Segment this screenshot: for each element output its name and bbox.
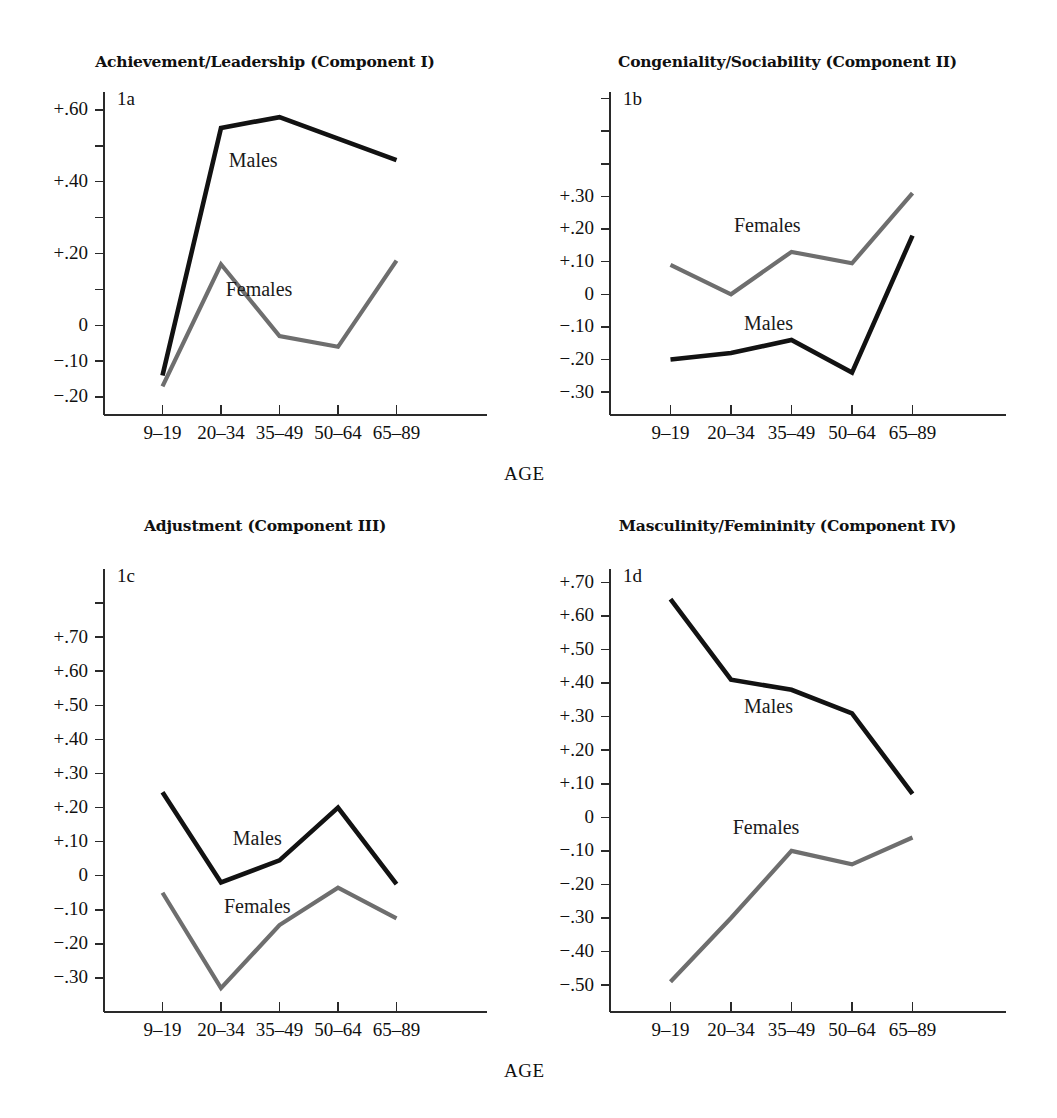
y-axis-tick-label: +.70: [560, 571, 594, 592]
panel-1a-plot: +.60+.40+.200−.10−.209–1920–3435–4950–64…: [10, 52, 520, 492]
panel-1c: Adjustment (Component III) +.70+.60+.50+…: [10, 516, 520, 1046]
panel-1d-plot: +.70+.60+.50+.40+.30+.20+.100−.10−.20−.3…: [530, 516, 1045, 1046]
x-axis-tick-label: 65–89: [889, 422, 937, 443]
y-axis-tick-label: −.30: [54, 966, 88, 987]
x-axis-tick-label: 20–34: [197, 1019, 245, 1040]
y-axis-tick-label: +.20: [54, 796, 88, 817]
x-axis-tick-label: 9–19: [652, 1019, 690, 1040]
series-label-males: Males: [233, 827, 282, 849]
x-axis-tick-label: 50–64: [314, 1019, 362, 1040]
y-axis-tick-label: −.30: [560, 906, 594, 927]
figure-four-component-age-trends: Achievement/Leadership (Component I) +.6…: [0, 0, 1057, 1118]
x-axis-tick-label: 35–49: [256, 1019, 304, 1040]
panel-tag-label: 1b: [623, 88, 642, 109]
y-axis-tick-label: +.30: [54, 762, 88, 783]
x-axis-tick-label: 50–64: [828, 1019, 876, 1040]
y-axis-tick-label: 0: [79, 314, 89, 335]
y-axis-tick-label: +.50: [54, 694, 88, 715]
x-axis-tick-label: 65–89: [373, 1019, 421, 1040]
panel-1c-plot: +.70+.60+.50+.40+.30+.20+.100−.10−.20−.3…: [10, 516, 520, 1046]
panel-tag-label: 1d: [623, 565, 643, 586]
y-axis-tick-label: +.20: [560, 739, 594, 760]
y-axis-tick-label: +.70: [54, 626, 88, 647]
x-axis-tick-label: 20–34: [707, 422, 755, 443]
y-axis-tick-label: +.60: [560, 604, 594, 625]
x-axis-tick-label: 65–89: [373, 422, 421, 443]
y-axis-tick-label: +.60: [54, 660, 88, 681]
y-axis-tick-label: +.50: [560, 638, 594, 659]
panel-tag-label: 1c: [117, 565, 135, 586]
series-line-females: [671, 193, 913, 294]
y-axis-tick-label: −.20: [54, 385, 88, 406]
y-axis-tick-label: +.10: [560, 250, 594, 271]
x-axis-tick-label: 35–49: [768, 1019, 816, 1040]
y-axis-tick-label: −.20: [560, 348, 594, 369]
series-label-males: Males: [229, 149, 278, 171]
y-axis-tick-label: −.10: [54, 350, 88, 371]
y-axis-tick-label: 0: [79, 864, 89, 885]
age-caption-bottom: AGE: [504, 1060, 545, 1082]
series-label-males: Males: [744, 695, 793, 717]
x-axis-tick-label: 9–19: [144, 1019, 182, 1040]
y-axis-tick-label: +.10: [560, 772, 594, 793]
y-axis-tick-label: +.40: [54, 728, 88, 749]
y-axis-tick-label: −.50: [560, 974, 594, 995]
y-axis-tick-label: 0: [585, 806, 595, 827]
y-axis-tick-label: +.10: [54, 830, 88, 851]
y-axis-tick-label: +.30: [560, 185, 594, 206]
y-axis-tick-label: +.20: [54, 242, 88, 263]
y-axis-tick-label: −.40: [560, 940, 594, 961]
series-label-females: Females: [226, 278, 293, 300]
panel-1b-plot: +.30+.20+.100−.10−.20−.309–1920–3435–495…: [530, 52, 1045, 492]
series-label-females: Females: [734, 214, 801, 236]
series-label-females: Females: [733, 816, 800, 838]
x-axis-tick-label: 65–89: [889, 1019, 937, 1040]
y-axis-tick-label: +.40: [54, 170, 88, 191]
y-axis-tick-label: −.10: [560, 839, 594, 860]
series-line-males: [671, 236, 913, 373]
y-axis-tick-label: −.30: [560, 381, 594, 402]
series-line-females: [671, 837, 913, 981]
panel-1b: Congeniality/Sociability (Component II) …: [530, 52, 1045, 492]
y-axis-tick-label: +.60: [54, 98, 88, 119]
x-axis-tick-label: 20–34: [707, 1019, 755, 1040]
x-axis-tick-label: 35–49: [256, 422, 304, 443]
panel-1d: Masculinity/Femininity (Component IV) +.…: [530, 516, 1045, 1046]
x-axis-tick-label: 35–49: [768, 422, 816, 443]
series-label-males: Males: [744, 312, 793, 334]
x-axis-tick-label: 20–34: [197, 422, 245, 443]
y-axis-tick-label: +.40: [560, 671, 594, 692]
age-caption-top: AGE: [504, 463, 545, 485]
x-axis-tick-label: 50–64: [828, 422, 876, 443]
y-axis-tick-label: −.10: [560, 315, 594, 336]
y-axis-tick-label: −.20: [54, 932, 88, 953]
y-axis-tick-label: −.20: [560, 873, 594, 894]
series-label-females: Females: [224, 895, 291, 917]
x-axis-tick-label: 9–19: [652, 422, 690, 443]
x-axis-tick-label: 50–64: [314, 422, 362, 443]
y-axis-tick-label: +.30: [560, 705, 594, 726]
panel-tag-label: 1a: [117, 88, 136, 109]
y-axis-tick-label: +.20: [560, 217, 594, 238]
y-axis-tick-label: −.10: [54, 898, 88, 919]
x-axis-tick-label: 9–19: [144, 422, 182, 443]
y-axis-tick-label: 0: [585, 283, 595, 304]
panel-1a: Achievement/Leadership (Component I) +.6…: [10, 52, 520, 492]
